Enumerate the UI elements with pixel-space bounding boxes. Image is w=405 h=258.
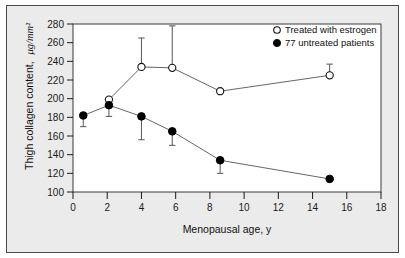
data-point-filled xyxy=(105,101,113,109)
x-tick-label: 18 xyxy=(375,202,387,213)
x-axis-title: Menopausal age, y xyxy=(183,223,272,235)
legend-marker-open xyxy=(274,27,281,34)
y-axis-ticks: 100120140160180200220240260280 xyxy=(47,19,73,198)
x-tick-label: 10 xyxy=(239,202,251,213)
svg-text:Thigh collagen content,: Thigh collagen content, μg/mm² xyxy=(23,22,35,170)
x-tick-label: 14 xyxy=(307,202,319,213)
plot-area xyxy=(73,24,381,192)
legend-label: Treated with estrogen xyxy=(285,24,377,35)
data-point-open xyxy=(326,72,333,79)
x-tick-label: 6 xyxy=(173,202,179,213)
x-tick-label: 8 xyxy=(207,202,213,213)
data-point-filled xyxy=(326,175,334,183)
y-tick-label: 200 xyxy=(47,93,64,104)
y-axis-title-text: Thigh collagen content, xyxy=(23,61,35,170)
x-tick-label: 12 xyxy=(273,202,285,213)
x-tick-label: 4 xyxy=(139,202,145,213)
y-tick-label: 180 xyxy=(47,112,64,123)
data-point-open xyxy=(169,64,176,71)
data-point-filled xyxy=(216,156,224,164)
y-tick-label: 260 xyxy=(47,37,64,48)
chart-canvas: 100120140160180200220240260280 024681012… xyxy=(0,0,405,258)
figure-root: 100120140160180200220240260280 024681012… xyxy=(0,0,405,258)
data-point-open xyxy=(217,88,224,95)
y-tick-label: 160 xyxy=(47,131,64,142)
data-point-filled xyxy=(168,128,176,136)
y-tick-label: 220 xyxy=(47,75,64,86)
y-tick-label: 100 xyxy=(47,187,64,198)
legend-label: 77 untreated patients xyxy=(285,37,375,48)
data-point-filled xyxy=(138,113,146,121)
x-tick-label: 2 xyxy=(104,202,110,213)
data-point-open xyxy=(138,63,145,70)
y-axis-title: Thigh collagen content, μg/mm² xyxy=(23,22,35,170)
legend-marker-filled xyxy=(273,39,280,46)
data-point-filled xyxy=(79,112,87,120)
x-tick-label: 0 xyxy=(70,202,76,213)
y-axis-title-units: μg/mm² xyxy=(24,22,35,56)
y-tick-label: 240 xyxy=(47,56,64,67)
y-tick-label: 120 xyxy=(47,168,64,179)
y-tick-label: 280 xyxy=(47,19,64,30)
x-axis-ticks: 024681012141618 xyxy=(70,192,387,213)
y-tick-label: 140 xyxy=(47,149,64,160)
x-tick-label: 16 xyxy=(341,202,353,213)
